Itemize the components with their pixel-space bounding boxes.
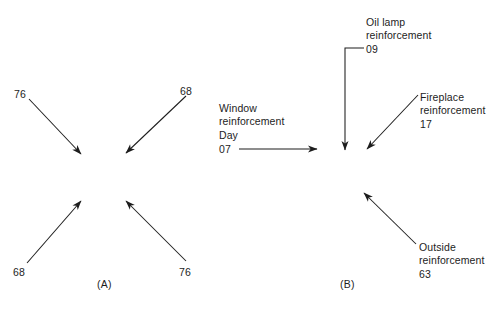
fireplace-reinforcement-title: Fireplace reinforcement [420, 91, 486, 116]
arrow-bottom-right-line [126, 201, 186, 261]
arrow-top-right-line [126, 96, 186, 153]
window-reinforcement-day-label: Day [219, 129, 238, 142]
outside-reinforcement-arrow [364, 193, 416, 244]
fireplace-reinforcement-value: 17 [420, 118, 432, 131]
panel-a-value-bottom-left: 68 [13, 266, 25, 279]
arrow-top-left-line [29, 99, 81, 154]
oil-lamp-reinforcement-value: 09 [366, 43, 378, 56]
oil-lamp-reinforcement-arrow [345, 48, 364, 150]
panel-b-arrows [239, 48, 418, 244]
oil-lamp-reinforcement-title: Oil lamp reinforcement [366, 16, 432, 41]
figure-canvas: 76 68 68 76 (A) Window reinforcement Day… [0, 0, 500, 309]
arrow-bottom-left-line [27, 201, 81, 263]
panel-a-value-bottom-right: 76 [179, 266, 191, 279]
panel-b-tag: (B) [340, 278, 355, 291]
window-reinforcement-title: Window reinforcement [219, 102, 285, 127]
panel-a-value-top-right: 68 [180, 85, 192, 98]
panel-a-arrows [27, 96, 186, 263]
panel-a-value-top-left: 76 [14, 88, 26, 101]
window-reinforcement-value: 07 [219, 143, 231, 156]
fireplace-reinforcement-arrow [367, 95, 418, 149]
panel-a-tag: (A) [97, 278, 112, 291]
outside-reinforcement-value: 63 [419, 268, 431, 281]
outside-reinforcement-title: Outside reinforcement [419, 241, 485, 266]
